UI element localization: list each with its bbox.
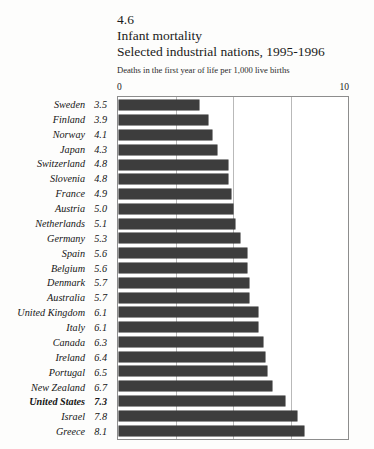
category-label-row: Portugal6.5: [0, 365, 113, 380]
category-name: Australia: [47, 292, 85, 303]
category-value: 6.5: [90, 367, 107, 378]
category-value: 4.8: [90, 158, 107, 169]
bar-row: [119, 231, 347, 246]
bar-row: [119, 113, 347, 128]
category-label-row: France4.9: [0, 186, 113, 201]
category-value: 7.3: [90, 396, 107, 407]
bar: [119, 307, 258, 317]
category-value: 3.9: [90, 114, 107, 125]
category-value: 5.1: [90, 218, 107, 229]
category-label-row: Norway4.1: [0, 127, 113, 142]
figure-page: 4.6 Infant mortality Selected industrial…: [0, 0, 374, 449]
category-label-row: Germany5.3: [0, 231, 113, 246]
category-name: Switzerland: [37, 158, 85, 169]
category-name: Israel: [61, 411, 85, 422]
bar-row: [119, 379, 347, 394]
category-name: Denmark: [47, 277, 85, 288]
bar-row: [119, 261, 347, 276]
category-name: Portugal: [49, 367, 85, 378]
plot-frame: [117, 96, 349, 440]
category-label-row: Slovenia4.8: [0, 171, 113, 186]
bar-row: [119, 98, 347, 113]
category-value: 6.4: [90, 352, 107, 363]
x-axis-tick-min: 0: [117, 82, 122, 93]
figure-units-note: Deaths in the first year of life per 1,0…: [117, 64, 357, 76]
figure-subtitle: Selected industrial nations, 1995-1996: [117, 44, 357, 60]
category-name: Ireland: [55, 352, 85, 363]
category-value: 6.7: [90, 382, 107, 393]
bar: [119, 233, 240, 243]
category-name: Japan: [60, 144, 85, 155]
bar: [119, 189, 231, 199]
bar: [119, 381, 272, 391]
bar: [119, 263, 247, 273]
category-label-row: United Kingdom6.1: [0, 305, 113, 320]
bar-row: [119, 142, 347, 157]
category-label-row: Canada6.3: [0, 335, 113, 350]
category-value: 5.7: [90, 277, 107, 288]
category-name: United Kingdom: [17, 307, 85, 318]
category-axis-labels: Sweden3.5Finland3.9Norway4.1Japan4.3Swit…: [0, 97, 113, 439]
bar-row: [119, 305, 347, 320]
bar-row: [119, 216, 347, 231]
bar-row: [119, 364, 347, 379]
bar: [119, 115, 208, 125]
bar: [119, 396, 285, 406]
bar: [119, 145, 217, 155]
bar-row: [119, 187, 347, 202]
bar-row: [119, 408, 347, 423]
bar-series: [119, 98, 347, 438]
category-label-row: Japan4.3: [0, 142, 113, 157]
category-label-row: Spain5.6: [0, 246, 113, 261]
category-label-row: Denmark5.7: [0, 276, 113, 291]
category-value: 4.8: [90, 173, 107, 184]
category-label-row: Switzerland4.8: [0, 157, 113, 172]
category-value: 5.6: [90, 263, 107, 274]
bar: [119, 352, 265, 362]
bar-row: [119, 320, 347, 335]
bar-row: [119, 290, 347, 305]
bar: [119, 293, 249, 303]
category-label-row: Israel7.8: [0, 409, 113, 424]
category-value: 7.8: [90, 411, 107, 422]
category-label-row: Netherlands5.1: [0, 216, 113, 231]
bar-row: [119, 349, 347, 364]
bar: [119, 204, 233, 214]
category-name: Finland: [53, 114, 85, 125]
category-name: Spain: [62, 248, 85, 259]
category-label-row: United States7.3: [0, 395, 113, 410]
category-name: Germany: [47, 233, 85, 244]
category-value: 6.1: [90, 307, 107, 318]
category-name: Slovenia: [50, 173, 85, 184]
category-value: 5.6: [90, 248, 107, 259]
figure-number: 4.6: [117, 12, 357, 28]
category-label-row: Sweden3.5: [0, 97, 113, 112]
category-name: France: [56, 188, 85, 199]
category-label-row: Italy6.1: [0, 320, 113, 335]
category-value: 3.5: [90, 99, 107, 110]
category-value: 4.3: [90, 144, 107, 155]
x-axis-tick-labels: 0 10: [117, 82, 349, 95]
bar-row: [119, 128, 347, 143]
category-name: Sweden: [54, 99, 85, 110]
category-label-row: Greece8.1: [0, 424, 113, 439]
bar-row: [119, 275, 347, 290]
bar-row: [119, 201, 347, 216]
bar: [119, 174, 228, 184]
category-value: 5.7: [90, 292, 107, 303]
category-value: 4.9: [90, 188, 107, 199]
bar: [119, 219, 235, 229]
category-name: Netherlands: [35, 218, 85, 229]
category-label-row: Austria5.0: [0, 201, 113, 216]
category-value: 6.3: [90, 337, 107, 348]
category-name: United States: [29, 396, 85, 407]
bar: [119, 130, 212, 140]
category-label-row: New Zealand6.7: [0, 380, 113, 395]
category-value: 4.1: [90, 129, 107, 140]
category-label-row: Australia5.7: [0, 290, 113, 305]
category-value: 5.0: [90, 203, 107, 214]
figure-header: 4.6 Infant mortality Selected industrial…: [117, 12, 357, 76]
bar-row: [119, 335, 347, 350]
category-name: Canada: [53, 337, 85, 348]
bar: [119, 322, 258, 332]
